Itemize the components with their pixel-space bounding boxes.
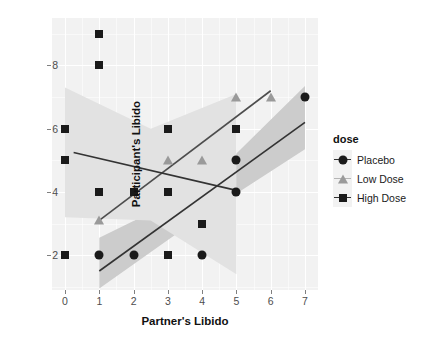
x-tick-label: 6 — [268, 295, 274, 307]
legend-item-high-dose[interactable]: High Dose — [333, 188, 406, 207]
x-tick-label: 7 — [302, 295, 308, 307]
x-tick-mark — [236, 290, 237, 294]
legend-item-label: High Dose — [357, 192, 406, 204]
x-tick-mark — [202, 290, 203, 294]
legend-key — [333, 188, 352, 207]
x-tick-mark — [305, 290, 306, 294]
x-tick-label: 2 — [131, 295, 137, 307]
legend-items: PlaceboLow DoseHigh Dose — [333, 150, 406, 207]
x-tick-label: 4 — [199, 295, 205, 307]
y-axis-title: Participant's Libido — [0, 18, 272, 290]
x-tick-label: 5 — [233, 295, 239, 307]
x-tick-label: 1 — [96, 295, 102, 307]
legend-item-label: Low Dose — [357, 173, 404, 185]
chart-root: 01234567 2468 Partner's Libido Participa… — [0, 0, 430, 347]
x-tick-mark — [65, 290, 66, 294]
x-axis-title: Partner's Libido — [52, 315, 318, 327]
legend-title: dose — [333, 133, 406, 145]
legend-item-low-dose[interactable]: Low Dose — [333, 169, 406, 188]
x-tick-mark — [134, 290, 135, 294]
square-marker-icon — [339, 194, 347, 202]
circle-marker-icon — [338, 155, 347, 164]
x-tick-label: 0 — [62, 295, 68, 307]
legend-item-placebo[interactable]: Placebo — [333, 150, 406, 169]
legend-key — [333, 169, 352, 188]
data-point — [300, 93, 309, 102]
legend: dose PlaceboLow DoseHigh Dose — [333, 133, 406, 207]
legend-key — [333, 150, 352, 169]
x-tick-label: 3 — [165, 295, 171, 307]
x-tick-mark — [271, 290, 272, 294]
legend-item-label: Placebo — [357, 154, 395, 166]
x-tick-mark — [99, 290, 100, 294]
triangle-marker-icon — [338, 174, 348, 183]
x-tick-mark — [168, 290, 169, 294]
